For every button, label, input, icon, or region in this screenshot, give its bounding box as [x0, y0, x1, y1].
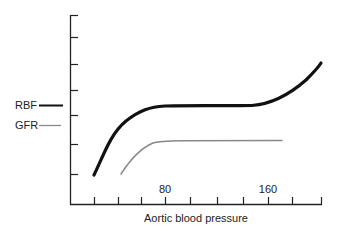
- renal-autoregulation-chart: 80 160 Aortic blood pressure RBF GFR: [0, 0, 337, 231]
- x-axis-title: Aortic blood pressure: [144, 212, 248, 224]
- x-tick-label-80: 80: [159, 183, 171, 195]
- legend: RBF GFR: [15, 99, 63, 131]
- y-axis: [71, 15, 79, 204]
- legend-label-gfr: GFR: [15, 119, 38, 131]
- x-axis: [70, 197, 322, 205]
- legend-label-rbf: RBF: [15, 99, 37, 111]
- gfr-curve: [121, 141, 282, 175]
- x-tick-label-160: 160: [259, 183, 277, 195]
- rbf-curve: [94, 63, 321, 175]
